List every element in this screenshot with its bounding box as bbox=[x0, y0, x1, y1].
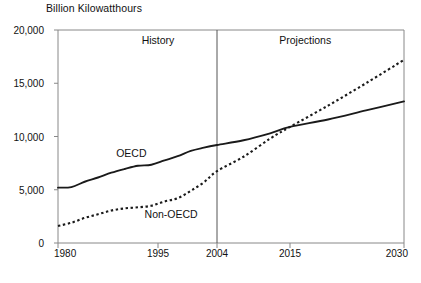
x-tick-label: 2004 bbox=[206, 248, 228, 259]
x-tick-label: 1980 bbox=[54, 248, 76, 259]
chart-container: Billion Kilowatthours 05,00010,00015,000… bbox=[0, 0, 421, 283]
x-tick-label: 2030 bbox=[386, 248, 408, 259]
y-tick-label: 20,000 bbox=[13, 25, 44, 36]
y-tick-label: 10,000 bbox=[13, 131, 44, 142]
series-line-oecd bbox=[58, 101, 404, 187]
y-tick-label: 5,000 bbox=[19, 184, 44, 195]
y-axis-title: Billion Kilowatthours bbox=[46, 2, 142, 14]
y-axis-tick-labels: 05,00010,00015,00020,000 bbox=[0, 0, 44, 283]
series-label-oecd: OECD bbox=[116, 147, 146, 159]
y-tick-label: 0 bbox=[38, 238, 44, 249]
x-tick-label: 1995 bbox=[147, 248, 169, 259]
x-tick-label: 2015 bbox=[279, 248, 301, 259]
series-label-non-oecd: Non-OECD bbox=[145, 208, 198, 220]
y-tick-label: 15,000 bbox=[13, 78, 44, 89]
region-label-projections: Projections bbox=[279, 34, 331, 46]
region-label-history: History bbox=[142, 34, 175, 46]
chart-plot-area bbox=[0, 0, 421, 283]
